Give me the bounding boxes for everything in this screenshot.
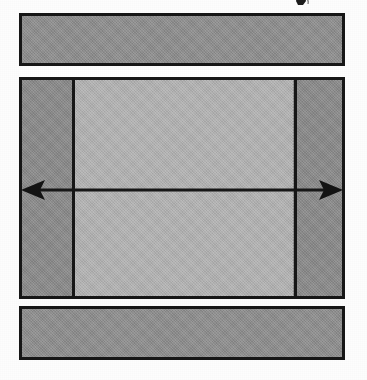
width-dimension-arrow [19,178,345,202]
layer-bottom-bar [19,306,345,360]
layer-top-bar [19,13,345,66]
top-bar-texture [22,16,342,63]
figure-canvas [0,0,367,380]
bottom-bar-texture [22,309,342,357]
stray-scan-mark-icon [296,0,314,10]
